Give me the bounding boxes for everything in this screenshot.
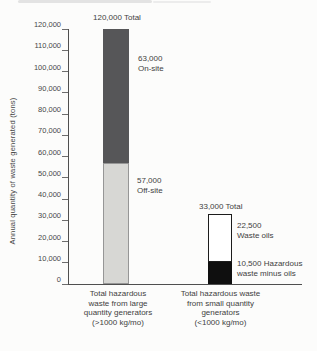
- y-tick-mark: [62, 241, 68, 242]
- y-tick-label: 20,000: [38, 233, 61, 243]
- y-tick-label: 10,000: [38, 254, 61, 264]
- y-tick-label: 90,000: [38, 84, 61, 94]
- y-tick-mark: [62, 156, 68, 157]
- on-site-segment-label: 63,000 On-site: [138, 54, 164, 74]
- y-tick-mark: [62, 177, 68, 178]
- x-axis-line: [68, 284, 302, 285]
- y-tick-mark: [62, 284, 68, 285]
- scan-artifact: [153, 1, 211, 3]
- y-tick-mark: [62, 114, 68, 115]
- y-tick-label: 110,000: [34, 41, 61, 51]
- y-tick-label: 60,000: [38, 148, 61, 158]
- y-axis-title: Annual quantity of waste generated (tons…: [8, 61, 20, 281]
- y-tick-label: 30,000: [38, 211, 61, 221]
- scan-artifact: [18, 0, 152, 3]
- y-tick-mark: [62, 262, 68, 263]
- x-category-label-large-generators: Total hazardous waste from large quantit…: [63, 289, 173, 327]
- y-tick-mark: [62, 220, 68, 221]
- bar1-total-label: 120,000 Total: [93, 13, 141, 23]
- waste-oils-segment-label: 22,500 Waste oils: [237, 221, 274, 241]
- y-tick-mark: [62, 135, 68, 136]
- y-axis-line: [68, 29, 69, 285]
- y-tick-label: 50,000: [38, 169, 61, 179]
- y-tick-label: 120,000: [34, 20, 61, 30]
- y-tick-mark: [62, 71, 68, 72]
- bar-segment-waste-oils: [208, 214, 232, 262]
- x-category-label-small-generators: Total hazardous waste from small quantit…: [163, 289, 278, 327]
- hazardous-minus-oils-segment-label: 10,500 Hazardous waste minus oils: [237, 259, 302, 279]
- y-tick-mark: [62, 29, 68, 30]
- y-tick-label: 40,000: [38, 190, 61, 200]
- y-tick-label: 80,000: [38, 105, 61, 115]
- y-tick-label: 100,000: [34, 63, 61, 73]
- bar-segment-off-site: [103, 163, 129, 284]
- y-tick-label: 0: [57, 275, 61, 285]
- off-site-segment-label: 57,000 Off-site: [137, 176, 163, 196]
- y-tick-mark: [62, 92, 68, 93]
- y-tick-mark: [62, 50, 68, 51]
- bar-segment-on-site: [103, 29, 129, 163]
- bar-segment-hazardous-waste-minus-oils: [208, 262, 232, 284]
- y-tick-mark: [62, 199, 68, 200]
- y-tick-label: 70,000: [38, 126, 61, 136]
- bar2-total-label: 33,000 Total: [199, 202, 242, 212]
- stacked-bar-chart-figure: Annual quantity of waste generated (tons…: [0, 0, 317, 351]
